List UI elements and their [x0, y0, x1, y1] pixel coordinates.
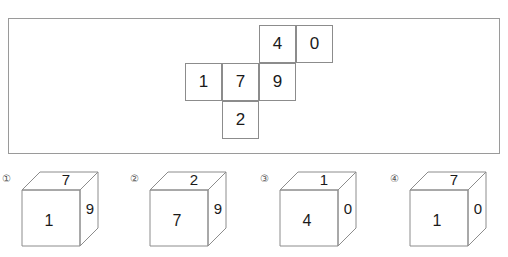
cube-front-number: 1: [433, 212, 442, 229]
cube-diagram-3: 410: [274, 166, 370, 252]
cube-diagram-1: 179: [16, 166, 112, 252]
net-cell: 1: [185, 63, 222, 101]
cube-right-number: 0: [344, 200, 352, 217]
net-cell: 2: [222, 101, 259, 139]
answer-option-1[interactable]: ①179: [2, 166, 130, 257]
net-cell: 4: [259, 25, 296, 63]
net-cell: 7: [222, 63, 259, 101]
cube-diagram-2: 729: [144, 166, 240, 252]
cube-front-number: 7: [173, 212, 182, 229]
net-panel: 401792: [8, 18, 500, 154]
answer-option-4[interactable]: ④170: [390, 166, 508, 257]
answer-option-2[interactable]: ②729: [130, 166, 258, 257]
puzzle-canvas: 401792 ①179②729③410④170: [0, 0, 508, 257]
net-cell: 9: [259, 63, 296, 101]
option-label-1: ①: [2, 174, 11, 184]
cube-top-number: 1: [320, 171, 328, 188]
cube-top-face: [150, 172, 226, 190]
cube-front-number: 1: [45, 212, 54, 229]
cube-right-number: 0: [474, 200, 482, 217]
answer-option-3[interactable]: ③410: [260, 166, 388, 257]
cube-top-number: 7: [450, 171, 458, 188]
cube-front-number: 4: [303, 212, 312, 229]
option-label-3: ③: [260, 174, 269, 184]
net-cell: 0: [296, 25, 333, 63]
cube-top-face: [280, 172, 356, 190]
cube-diagram-4: 170: [404, 166, 500, 252]
cube-top-number: 2: [190, 171, 198, 188]
cube-top-number: 7: [62, 171, 70, 188]
cube-top-face: [410, 172, 486, 190]
option-label-4: ④: [390, 174, 399, 184]
cube-top-face: [22, 172, 98, 190]
cube-right-number: 9: [86, 200, 94, 217]
cube-right-number: 9: [214, 200, 222, 217]
option-label-2: ②: [130, 174, 139, 184]
